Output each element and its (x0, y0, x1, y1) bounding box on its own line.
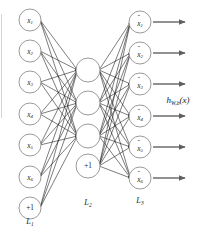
connection-edge (40, 51, 78, 70)
output-node-1: ˆx1 (129, 11, 151, 33)
connection-edge (40, 82, 78, 103)
output-node-5: ˆx5 (129, 136, 151, 158)
output-function-group: hW,b(x) (166, 95, 189, 106)
hidden-node-2 (76, 91, 100, 115)
layer-labels-group: L1L2L3 (25, 196, 144, 227)
input-node-2: x2 (19, 40, 41, 62)
output-node-4: ˆx4 (129, 105, 151, 127)
node-circle (76, 124, 100, 148)
input-node-5: x5 (19, 134, 41, 156)
connection-edge (40, 103, 78, 114)
hidden-node-3 (76, 124, 100, 148)
output-node-2: ˆx2 (129, 42, 151, 64)
connection-edge (40, 136, 78, 177)
input-node-6: x6 (19, 166, 41, 188)
hidden-bias-node: +1 (76, 154, 100, 178)
bias-node-label: +1 (84, 162, 92, 170)
input-node-1: x1 (19, 9, 41, 31)
connection-edge (40, 70, 78, 82)
node-circle (76, 91, 100, 115)
network-graph: x1x2x3x4x5x6+1+1ˆx1ˆx2ˆx3ˆx4ˆx5ˆx6 L1L2L… (0, 0, 207, 235)
output-node-6: ˆx6 (129, 167, 151, 189)
connection-edge (40, 103, 78, 208)
output-function-label: hW,b(x) (166, 95, 189, 106)
output-node-3: ˆx3 (129, 73, 151, 95)
autoencoder-diagram: x1x2x3x4x5x6+1+1ˆx1ˆx2ˆx3ˆx4ˆx5ˆx6 L1L2L… (0, 0, 207, 235)
hidden-node-1 (76, 58, 100, 82)
node-circle (76, 58, 100, 82)
input-node-3: x3 (19, 71, 41, 93)
output-layer-label: L3 (135, 196, 144, 206)
edges-input-to-hidden (40, 20, 78, 208)
connection-edge (99, 22, 131, 166)
nodes-group: x1x2x3x4x5x6+1+1ˆx1ˆx2ˆx3ˆx4ˆx5ˆx6 (19, 9, 151, 219)
connection-edge (40, 136, 78, 208)
connection-edge (99, 84, 131, 166)
hidden-layer-label: L2 (83, 198, 92, 208)
input-node-4: x4 (19, 103, 41, 125)
connection-edge (99, 53, 131, 70)
connection-edge (99, 136, 131, 178)
connection-edge (40, 114, 78, 136)
connection-edge (40, 20, 78, 70)
input-bias-node: +1 (19, 197, 41, 219)
edges-hidden-to-output (99, 22, 131, 178)
bias-node-label: +1 (26, 204, 34, 212)
